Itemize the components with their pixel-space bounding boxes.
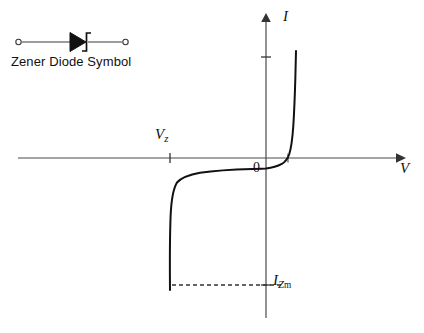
terminal-node-icon-left [16,39,21,44]
i-axis-arrowhead-icon [261,13,271,22]
breakdown-voltage-label: Vz [155,126,168,144]
diode-triangle-icon [70,33,86,52]
zener-iv-curve [170,51,296,290]
izm-subsubscript: m [284,280,291,290]
terminal-node-icon-right [123,39,128,44]
vz-subscript: z [164,132,168,144]
zener-symbol-caption: Zener Diode Symbol [11,54,131,69]
zener-diode-symbol-group [16,33,128,52]
i-axis-label: I [283,8,288,25]
origin-label: 0 [253,160,260,176]
vz-symbol: V [155,126,164,142]
max-zener-current-label: IZm [273,272,291,290]
v-axis-label: V [400,160,409,177]
zener-characteristic-figure: Zener Diode Symbol I V 0 Vz IZm [0,0,424,333]
figure-canvas [0,0,424,333]
